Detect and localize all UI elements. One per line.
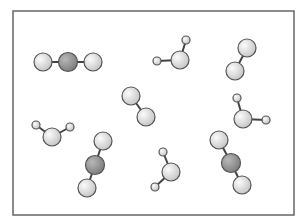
molecule-co2 — [210, 131, 251, 194]
molecules-group — [32, 36, 270, 197]
molecule-co2 — [34, 53, 102, 72]
molecule-h2o — [153, 36, 190, 69]
hydrogen-atom — [151, 183, 159, 191]
carbon-atom — [86, 156, 105, 175]
hydrogen-atom — [182, 36, 190, 44]
atom — [233, 176, 251, 194]
atom — [122, 87, 140, 105]
hydrogen-atom — [233, 94, 241, 102]
atom — [137, 108, 155, 126]
atom — [43, 128, 61, 146]
molecule-diatomic — [122, 87, 155, 126]
atom — [210, 131, 228, 149]
hydrogen-atom — [66, 123, 74, 131]
molecule-diagram — [0, 0, 307, 220]
carbon-atom — [59, 53, 78, 72]
atom — [94, 132, 112, 150]
atom — [238, 39, 256, 57]
molecule-co2 — [78, 132, 112, 197]
hydrogen-atom — [262, 116, 270, 124]
carbon-atom — [222, 154, 241, 173]
molecule-h2o — [233, 94, 270, 128]
atom — [226, 62, 244, 80]
molecule-h2o — [32, 121, 74, 146]
hydrogen-atom — [153, 57, 161, 65]
atom — [78, 179, 96, 197]
molecule-diatomic — [226, 39, 256, 80]
molecule-h2o — [151, 148, 180, 191]
hydrogen-atom — [159, 148, 167, 156]
atom — [234, 110, 252, 128]
atom — [84, 53, 102, 71]
atom — [171, 51, 189, 69]
atom — [162, 163, 180, 181]
hydrogen-atom — [32, 121, 40, 129]
atom — [34, 53, 52, 71]
